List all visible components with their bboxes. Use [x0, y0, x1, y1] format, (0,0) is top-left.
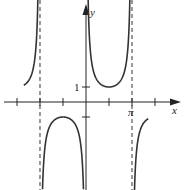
csc-curve-branch	[134, 119, 148, 190]
pi-tick-label: π	[128, 106, 134, 118]
csc-curve-branch	[24, 0, 38, 85]
one-tick-label: 1	[74, 81, 80, 93]
axes	[4, 4, 181, 190]
csc-curve-branch	[43, 117, 84, 189]
x-axis-label: x	[171, 104, 177, 116]
y-axis-label: y	[89, 6, 95, 18]
csc-graph: y x π 1	[0, 0, 184, 190]
